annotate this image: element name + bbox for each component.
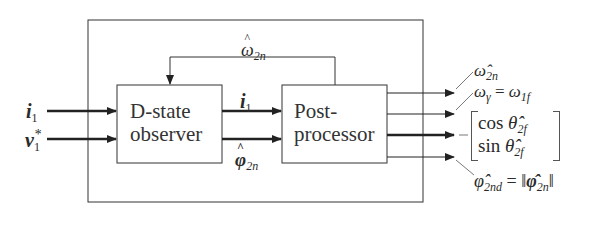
feedback-label: ω2n: [241, 41, 266, 62]
observer-block: D-state observer: [130, 100, 202, 146]
output-label-omega-gamma: ωγ = ω1f: [474, 83, 530, 103]
internal-label-i1: i1: [240, 91, 252, 114]
input-label-v1: v1*: [25, 128, 47, 153]
postprocessor-label-2: processor: [294, 123, 374, 146]
observer-label-2: observer: [130, 123, 202, 146]
output-label-cos: cos θ̂2f: [478, 113, 527, 135]
output-label-sin: sin θ̂2f: [478, 136, 524, 158]
bracket-left: [471, 111, 478, 161]
postprocessor-block: Post- processor: [294, 100, 374, 146]
input-label-i1: i1: [26, 101, 38, 124]
internal-label-phi: φ2n: [235, 150, 258, 172]
output-label-phi2nd: φ̂2nd = ‖φ̂2n‖: [474, 172, 554, 193]
observer-label-1: D-state: [130, 100, 202, 123]
postprocessor-label-1: Post-: [294, 100, 374, 123]
bracket-right: [553, 111, 560, 161]
output-label-omega2n: ω̂2n: [474, 62, 498, 82]
